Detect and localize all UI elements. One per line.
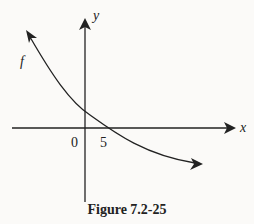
curve-start-arrow-icon [26, 30, 37, 43]
origin-label: 0 [71, 135, 78, 150]
tick-label-5: 5 [100, 135, 107, 150]
curve-label: f [20, 54, 26, 69]
x-axis-label: x [239, 120, 247, 135]
y-axis-label: y [91, 8, 100, 23]
curve-end-arrow-icon [190, 158, 203, 170]
curve-f [30, 37, 195, 163]
function-graph: y x f 0 5 [0, 0, 254, 224]
figure-caption: Figure 7.2-25 [0, 202, 254, 218]
